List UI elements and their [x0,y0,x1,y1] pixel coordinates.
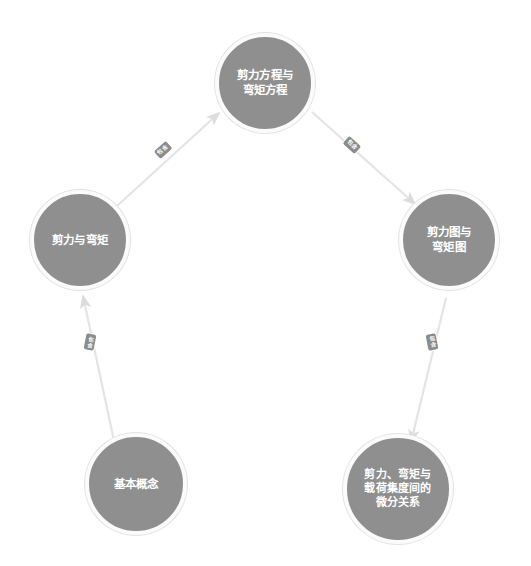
node-top[interactable]: 剪力方程与 弯矩方程 [215,33,315,133]
node-bottom-right[interactable]: 剪力、弯矩与 载荷集度间的 微分关系 [343,434,453,544]
node-top-label-line1: 剪力方程与 [237,68,293,83]
edge-line-right-to-bottomright [411,298,446,442]
node-bottom-right-label-line2: 载荷集度间的 [364,482,431,496]
node-top-label: 剪力方程与 弯矩方程 [231,68,299,97]
edge-line-bottomleft-to-left [83,296,116,450]
edge-line-left-to-top [117,113,219,206]
node-bottom-left-label: 基本概念 [108,477,165,492]
node-bottom-right-label-line3: 微分关系 [364,496,431,510]
node-right-label-line2: 弯矩图 [427,240,472,255]
node-left-label: 剪力与弯矩 [46,233,114,248]
diagram-canvas: 剪力方程与 弯矩方程 剪力与弯矩 剪力图与 弯矩图 基本概念 剪力、弯矩与 载荷… [0,0,531,566]
node-bottom-right-label: 剪力、弯矩与 载荷集度间的 微分关系 [358,468,437,510]
edge-line-top-to-right [312,112,415,204]
node-bottom-left-label-line1: 基本概念 [114,477,159,492]
node-left[interactable]: 剪力与弯矩 [30,190,130,290]
node-bottom-left[interactable]: 基本概念 [85,433,187,535]
node-top-label-line2: 弯矩方程 [237,83,293,98]
node-right-label: 剪力图与 弯矩图 [421,225,478,254]
node-right-label-line1: 剪力图与 [427,225,472,240]
node-right[interactable]: 剪力图与 弯矩图 [399,190,499,290]
node-bottom-right-label-line1: 剪力、弯矩与 [364,468,431,482]
node-left-label-line1: 剪力与弯矩 [52,233,108,248]
